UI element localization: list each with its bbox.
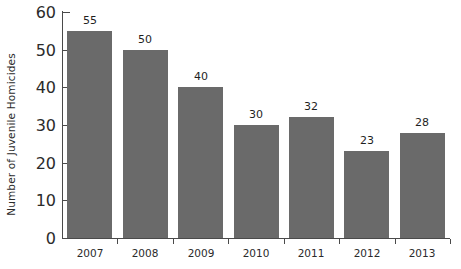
bar-value-label: 30: [226, 109, 286, 120]
bar: [289, 117, 334, 238]
bar-value-label: 40: [171, 71, 231, 82]
y-tick-label-text: 0: [46, 229, 56, 248]
x-axis-line: [62, 238, 450, 239]
y-tick-label-text: 10: [36, 191, 56, 210]
bar: [67, 31, 112, 238]
x-tick-mark: [173, 239, 174, 244]
y-tick-label: 30: [18, 119, 56, 131]
y-tick-label-text: 40: [36, 78, 56, 97]
bar-value-label: 23: [337, 135, 397, 146]
x-tick-label: 2008: [115, 248, 175, 259]
x-tick-mark: [228, 239, 229, 244]
x-tick-mark: [395, 239, 396, 244]
y-tick-label-text: 50: [36, 41, 56, 60]
y-tick-label: 50: [18, 44, 56, 56]
y-tick-mark: [63, 238, 70, 239]
x-tick-label: 2011: [281, 248, 341, 259]
y-tick-label-text: 30: [36, 116, 56, 135]
y-tick-label-text: 60: [36, 3, 56, 22]
x-tick-label: 2007: [60, 248, 120, 259]
bar-value-label: 32: [281, 101, 341, 112]
bar-value-label: 50: [115, 34, 175, 45]
x-tick-mark: [339, 239, 340, 244]
bar: [400, 133, 445, 238]
y-axis-title: Number of Juvenile Homicides: [0, 0, 22, 269]
bar: [344, 151, 389, 238]
bar: [123, 50, 168, 238]
bar: [178, 87, 223, 238]
x-tick-label: 2013: [392, 248, 452, 259]
y-tick-label: 20: [18, 157, 56, 169]
y-tick-label: 60: [18, 6, 56, 18]
x-tick-mark: [284, 239, 285, 244]
x-tick-label: 2012: [337, 248, 397, 259]
y-tick-label-text: 20: [36, 154, 56, 173]
y-tick-mark: [63, 12, 70, 13]
x-tick-label: 2010: [226, 248, 286, 259]
x-tick-mark: [450, 239, 451, 244]
x-tick-mark: [117, 239, 118, 244]
bar-value-label: 55: [60, 15, 120, 26]
y-tick-label: 0: [18, 232, 56, 244]
y-tick-label: 10: [18, 194, 56, 206]
bar-chart: Number of Juvenile Homicides 01020304050…: [0, 0, 461, 269]
bar: [234, 125, 279, 238]
bar-value-label: 28: [392, 117, 452, 128]
y-tick-label: 40: [18, 81, 56, 93]
x-tick-label: 2009: [171, 248, 231, 259]
